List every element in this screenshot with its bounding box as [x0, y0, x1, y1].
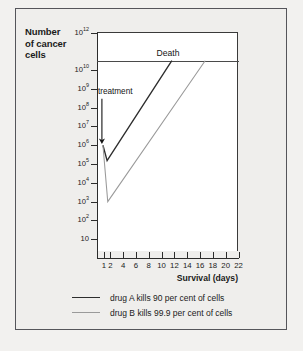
y-axis-tick [91, 183, 97, 184]
x-axis-tick [104, 252, 105, 258]
y-axis-tick-label-text: 102 [49, 215, 89, 224]
y-axis-tick-label-text: 103 [49, 197, 89, 206]
x-axis-tick [149, 252, 150, 258]
y-axis-tick-label: 1010 [47, 65, 89, 75]
y-axis-tick [91, 164, 97, 165]
legend-swatch-line-icon [72, 297, 100, 298]
y-axis-tick-label: 109 [47, 84, 89, 94]
death-label: Death [157, 48, 180, 58]
y-axis-tick-label-text: 105 [49, 159, 89, 168]
y-axis-tick-label-text: 107 [49, 121, 89, 130]
y-axis-tick [91, 145, 97, 146]
x-axis-tick [200, 252, 201, 258]
x-axis-line [97, 258, 239, 259]
y-axis-tick-label-text: 1012 [49, 28, 89, 37]
legend-item: drug A kills 90 per cent of cells [72, 290, 272, 305]
y-axis-tick [91, 202, 97, 203]
x-axis-tick [136, 252, 137, 258]
x-axis-tick-label: 22 [230, 261, 248, 270]
x-axis-tick [162, 252, 163, 258]
y-axis-tick-label: 106 [47, 140, 89, 150]
y-axis-tick-label: 103 [47, 197, 89, 207]
y-axis-tick [91, 108, 97, 109]
y-axis-tick-labels: 1012101010910810710610510410310210 [47, 9, 89, 331]
chart-legend: drug A kills 90 per cent of cellsdrug B … [72, 290, 272, 320]
y-axis-tick-label: 105 [47, 159, 89, 169]
x-axis-tick [187, 252, 188, 258]
y-axis-tick-label: 102 [47, 215, 89, 225]
legend-item: drug B kills 99.9 per cent of cells [72, 305, 272, 320]
x-axis-tick [226, 252, 227, 258]
legend-item-label: drug B kills 99.9 per cent of cells [110, 308, 232, 318]
x-axis-tick [123, 252, 124, 258]
chart-area: Numberof cancercells 1012101010910810710… [16, 9, 288, 331]
x-axis-tick [174, 252, 175, 258]
y-axis-tick-label: 107 [47, 121, 89, 131]
y-axis-tick-label: 1012 [47, 28, 89, 38]
figure-frame: Numberof cancercells 1012101010910810710… [15, 8, 287, 330]
x-axis-tick [239, 252, 240, 258]
y-axis-tick-label-text: 10 [49, 234, 89, 243]
y-axis-tick-label: 10 [47, 234, 89, 244]
y-axis-tick-label: 108 [47, 103, 89, 113]
death-threshold-line [97, 61, 239, 62]
x-axis-tick [213, 252, 214, 258]
y-axis-tick [91, 33, 97, 34]
y-axis-tick-label-text: 108 [49, 103, 89, 112]
y-axis-tick [91, 89, 97, 90]
y-axis-tick-label-text: 106 [49, 140, 89, 149]
y-axis-tick [91, 220, 97, 221]
treatment-label: treatment [98, 87, 133, 96]
y-axis-tick [91, 239, 97, 240]
plot-box [97, 32, 238, 251]
page-background: Numberof cancercells 1012101010910810710… [0, 0, 303, 351]
legend-swatch-line-icon [72, 312, 100, 313]
y-axis-tick-label-text: 104 [49, 178, 89, 187]
y-axis-tick-label-text: 1010 [49, 65, 89, 74]
y-axis-tick [91, 70, 97, 71]
x-axis-tick [110, 252, 111, 258]
y-axis-tick-label: 104 [47, 178, 89, 188]
legend-item-label: drug A kills 90 per cent of cells [110, 293, 224, 303]
y-axis-line [97, 32, 98, 259]
x-axis-title: Survival (days) [177, 273, 238, 283]
y-axis-tick-label-text: 109 [49, 84, 89, 93]
y-axis-tick [91, 126, 97, 127]
